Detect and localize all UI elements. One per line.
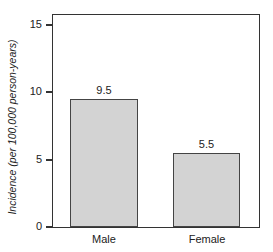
y-tick-label: 10 [22, 85, 42, 97]
bar-value-label: 9.5 [74, 84, 134, 96]
y-tick-label: 15 [22, 18, 42, 30]
y-tick-0 [46, 226, 52, 228]
x-category-label: Male [69, 233, 139, 245]
y-axis-label: Incidence (per 100,000 person-years) [6, 27, 18, 227]
y-tick-10 [46, 91, 52, 93]
bar-female [173, 153, 240, 227]
bar-male [70, 99, 138, 227]
y-tick-15 [46, 24, 52, 26]
y-tick-5 [46, 159, 52, 161]
bar-value-label: 5.5 [177, 138, 237, 150]
x-category-label: Female [172, 233, 242, 245]
y-tick-label: 0 [22, 220, 42, 232]
y-tick-label: 5 [22, 153, 42, 165]
